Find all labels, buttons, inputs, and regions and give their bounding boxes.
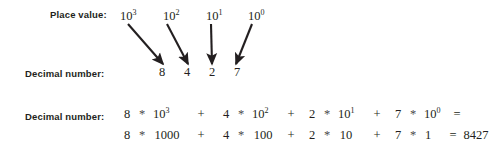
line1-term1-coefficient: 8 (122, 107, 132, 122)
line1-term3-base: 10 (338, 107, 351, 121)
line2-term4-value: 1 (423, 128, 433, 143)
line1-plus-2: + (286, 107, 296, 122)
line2-term1-coefficient: 8 (122, 128, 132, 143)
line2-term3-coefficient: 2 (307, 128, 317, 143)
line1-term2-coefficient: 4 (221, 107, 231, 122)
line1-term1-power: 103 (153, 107, 170, 122)
decimal-number-label: Decimal number: (25, 68, 104, 79)
line1-term4-base: 10 (424, 107, 437, 121)
place-value-label: Place value: (50, 9, 107, 20)
place-value-10e1: 101 (206, 9, 223, 24)
line1-term2-power: 102 (252, 107, 269, 122)
line2-plus-2: + (286, 128, 296, 143)
line1-plus-3: + (372, 107, 382, 122)
arrow-10e3-to-8 (128, 24, 163, 64)
place-value-10e0-base: 10 (248, 9, 261, 23)
line2-plus-1: + (196, 128, 206, 143)
digit-ones: 7 (230, 65, 244, 80)
line1-term2-exponent: 2 (265, 106, 269, 115)
line1-plus-1: + (196, 107, 206, 122)
digit-hundreds: 4 (180, 65, 194, 80)
place-value-diagram: Place value: 103 102 101 100 Decimal num… (0, 0, 489, 158)
line1-term3-exponent: 1 (351, 106, 355, 115)
line1-term2-operator: * (236, 107, 246, 122)
line1-term3-coefficient: 2 (307, 107, 317, 122)
line1-term3-operator: * (322, 107, 332, 122)
line2-term1-operator: * (137, 128, 147, 143)
line1-term4-power: 100 (424, 107, 441, 122)
line1-term4-coefficient: 7 (393, 107, 403, 122)
line1-equals: = (452, 107, 462, 122)
place-value-10e2: 102 (163, 9, 180, 24)
line2-equals: = (448, 128, 458, 143)
line2-term4-operator: * (408, 128, 418, 143)
line2-term1-value: 1000 (152, 128, 182, 143)
arrow-10e0-to-7 (236, 24, 252, 64)
place-value-10e3-exponent: 3 (133, 8, 137, 17)
line1-term3-power: 101 (338, 107, 355, 122)
line2-term3-operator: * (322, 128, 332, 143)
line1-term1-exponent: 3 (166, 106, 170, 115)
line1-term1-operator: * (137, 107, 147, 122)
place-value-10e1-base: 10 (206, 9, 219, 23)
place-value-10e3: 103 (120, 9, 137, 24)
line2-term2-coefficient: 4 (221, 128, 231, 143)
line2-term2-operator: * (236, 128, 246, 143)
place-value-10e2-base: 10 (163, 9, 176, 23)
line2-term2-value: 100 (251, 128, 275, 143)
line1-term4-operator: * (408, 107, 418, 122)
place-value-10e0-exponent: 0 (261, 8, 265, 17)
arrow-10e2-to-4 (167, 24, 188, 64)
line2-plus-3: + (372, 128, 382, 143)
place-value-10e2-exponent: 2 (176, 8, 180, 17)
line2-term3-value: 10 (337, 128, 355, 143)
place-value-10e0: 100 (248, 9, 265, 24)
line2-term4-coefficient: 7 (393, 128, 403, 143)
decimal-number-expansion-label: Decimal number: (25, 111, 104, 122)
line1-term1-base: 10 (153, 107, 166, 121)
place-value-10e1-exponent: 1 (219, 8, 223, 17)
place-value-10e3-base: 10 (120, 9, 133, 23)
line2-result: 8427 (462, 128, 489, 143)
line1-term2-base: 10 (252, 107, 265, 121)
digit-thousands: 8 (155, 65, 169, 80)
arrow-10e1-to-2 (211, 24, 212, 64)
digit-tens: 2 (205, 65, 219, 80)
line1-term4-exponent: 0 (437, 106, 441, 115)
